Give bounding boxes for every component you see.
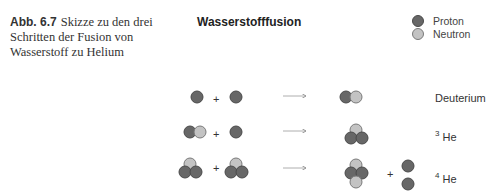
proton-icon <box>230 126 242 138</box>
proton-icon <box>225 166 237 178</box>
product-label-deuterium: Deuterium <box>435 92 486 104</box>
proton-icon <box>402 160 414 172</box>
proton-icon <box>179 166 191 178</box>
proton-icon <box>236 166 248 178</box>
proton-icon <box>190 166 202 178</box>
neutron-icon <box>350 176 362 188</box>
legend-proton-icon <box>413 16 424 27</box>
neutron-icon <box>194 126 206 138</box>
legend-neutron-icon <box>413 29 424 40</box>
fusion-diagram <box>0 0 496 193</box>
neutron-icon <box>350 91 362 103</box>
plus-sign: + <box>387 168 393 180</box>
element-symbol: He <box>443 173 457 185</box>
plus-sign: + <box>213 93 219 105</box>
product-label-helium-3: 3 He <box>435 129 457 143</box>
mass-number: 3 <box>435 129 439 138</box>
proton-icon <box>356 132 368 144</box>
proton-icon <box>345 132 357 144</box>
element-symbol: He <box>443 131 457 143</box>
plus-sign: + <box>213 128 219 140</box>
proton-icon <box>230 91 242 103</box>
plus-sign: + <box>213 162 219 174</box>
proton-icon <box>191 91 203 103</box>
proton-icon <box>402 178 414 190</box>
mass-number: 4 <box>435 171 439 180</box>
product-label-helium-4: 4 He <box>435 171 457 185</box>
reaction-row-2 <box>184 124 368 144</box>
